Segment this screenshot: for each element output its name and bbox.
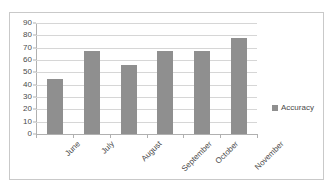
bar-slot xyxy=(74,23,111,134)
bar-june[interactable] xyxy=(47,79,63,135)
bar-october[interactable] xyxy=(194,51,210,134)
x-tick-label-august: August xyxy=(140,140,163,163)
bar-november[interactable] xyxy=(231,38,247,134)
bar-slot xyxy=(110,23,147,134)
y-tick-label: 60 xyxy=(23,56,32,64)
y-tick-label: 0 xyxy=(28,130,32,138)
chart-legend: Accuracy xyxy=(272,104,314,112)
y-tick-mark xyxy=(33,84,36,85)
bar-slot xyxy=(184,23,221,134)
y-tick-label: 90 xyxy=(23,19,32,27)
y-tick-mark xyxy=(33,23,36,24)
x-tick-mark xyxy=(257,134,258,138)
x-tick-label-june: June xyxy=(64,140,82,158)
legend-swatch-accuracy xyxy=(272,105,278,111)
y-tick-label: 40 xyxy=(23,81,32,89)
y-tick-mark xyxy=(33,59,36,60)
y-tick-label: 30 xyxy=(23,93,32,101)
y-tick-label: 80 xyxy=(23,31,32,39)
y-tick-mark xyxy=(33,96,36,97)
x-tick-mark xyxy=(183,134,184,138)
y-tick-mark xyxy=(33,47,36,48)
chart-container: 0102030405060708090 JuneJulyAugustSeptem… xyxy=(9,12,324,180)
y-tick-mark xyxy=(33,109,36,110)
x-tick-label-october: October xyxy=(214,140,240,166)
legend-label-accuracy: Accuracy xyxy=(281,104,314,112)
x-tick-mark xyxy=(220,134,221,138)
bar-july[interactable] xyxy=(84,51,100,134)
bar-august[interactable] xyxy=(121,65,137,134)
x-tick-label-july: July xyxy=(100,140,116,156)
y-tick-label: 70 xyxy=(23,44,32,52)
x-tick-mark xyxy=(36,134,37,138)
plot-area: 0102030405060708090 JuneJulyAugustSeptem… xyxy=(36,23,257,134)
y-tick-mark xyxy=(33,72,36,73)
bar-slot xyxy=(220,23,257,134)
x-tick-mark xyxy=(73,134,74,138)
y-tick-mark xyxy=(33,35,36,36)
y-tick-label: 50 xyxy=(23,68,32,76)
x-tick-mark xyxy=(147,134,148,138)
x-tick-label-november: November xyxy=(254,140,286,172)
x-tick-mark xyxy=(110,134,111,138)
y-tick-label: 10 xyxy=(23,118,32,126)
y-tick-label: 20 xyxy=(23,105,32,113)
y-tick-mark xyxy=(33,121,36,122)
bar-september[interactable] xyxy=(157,51,173,134)
bars-layer xyxy=(37,23,257,134)
bar-slot xyxy=(147,23,184,134)
x-tick-label-september: September xyxy=(181,140,214,173)
bar-slot xyxy=(37,23,74,134)
